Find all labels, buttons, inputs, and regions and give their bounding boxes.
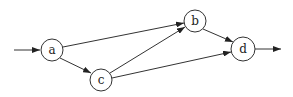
node-c-label: c	[98, 73, 105, 87]
edge-a-c	[60, 58, 91, 73]
node-a-label: a	[48, 43, 55, 57]
node-c: c	[90, 69, 112, 91]
edge-c-b	[110, 27, 185, 73]
node-a: a	[41, 39, 63, 61]
node-b-label: b	[191, 14, 199, 28]
node-d: d	[231, 37, 255, 61]
node-b: b	[184, 10, 206, 32]
graph-canvas: a b c d	[0, 0, 293, 97]
node-d-label: d	[239, 42, 247, 56]
edge-a-b	[63, 23, 184, 47]
edge-c-d	[112, 52, 231, 78]
edge-b-d	[203, 29, 233, 42]
